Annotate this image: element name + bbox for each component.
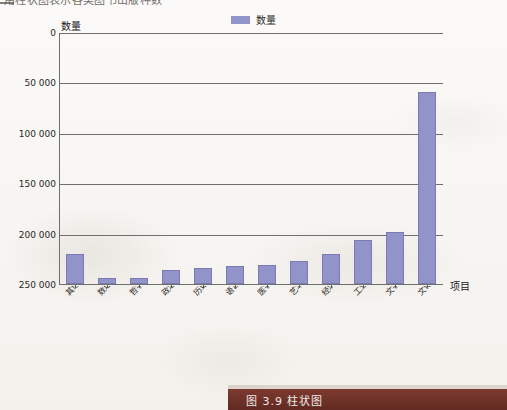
legend-swatch-icon: [231, 16, 250, 24]
scanned-page-background: 用柱状图表示各类图书出版种数 数量 数量 项目 250 000200 00015…: [0, 0, 507, 410]
figure-caption-text: 图 3.9 柱状图: [246, 392, 324, 408]
bar: [194, 268, 212, 284]
bar: [354, 240, 372, 284]
cropped-heading-strip: 用柱状图表示各类图书出版种数: [0, 0, 507, 9]
bar: [418, 92, 436, 284]
x-axis-category-label: 文化、科学、教育图书出版种数: [414, 286, 500, 297]
cropped-heading-text: 用柱状图表示各类图书出版种数: [4, 0, 162, 7]
bar: [386, 232, 404, 284]
y-axis-tick-label: 50 000: [0, 78, 56, 88]
y-axis-tick-label: 150 000: [0, 179, 56, 189]
x-axis-line: [59, 284, 443, 285]
bar: [98, 278, 116, 284]
gridline: [59, 83, 443, 84]
y-axis-tick-label: 100 000: [0, 129, 56, 139]
bar: [66, 254, 84, 284]
plot-area: [59, 33, 443, 285]
gridline: [59, 134, 443, 135]
x-axis-category-labels: 其他出版种数数理科学、化学图书出版种数哲学图书出版种数政治、法律图书出版种数历史…: [0, 286, 507, 384]
bar: [290, 261, 308, 284]
y-axis-title: 数量: [61, 18, 81, 33]
bar: [130, 278, 148, 284]
gridline: [59, 184, 443, 185]
y-axis-line: [59, 33, 60, 285]
y-axis-tick-label: 0: [0, 28, 56, 38]
legend-label-quantity: 数量: [256, 12, 276, 27]
bar: [258, 265, 276, 284]
bar: [162, 270, 180, 284]
plot-top-rule: [59, 33, 443, 34]
bar: [226, 266, 244, 284]
y-axis-tick-label: 200 000: [0, 230, 56, 240]
bar: [322, 254, 340, 284]
figure-caption-bar: 图 3.9 柱状图: [228, 389, 507, 410]
